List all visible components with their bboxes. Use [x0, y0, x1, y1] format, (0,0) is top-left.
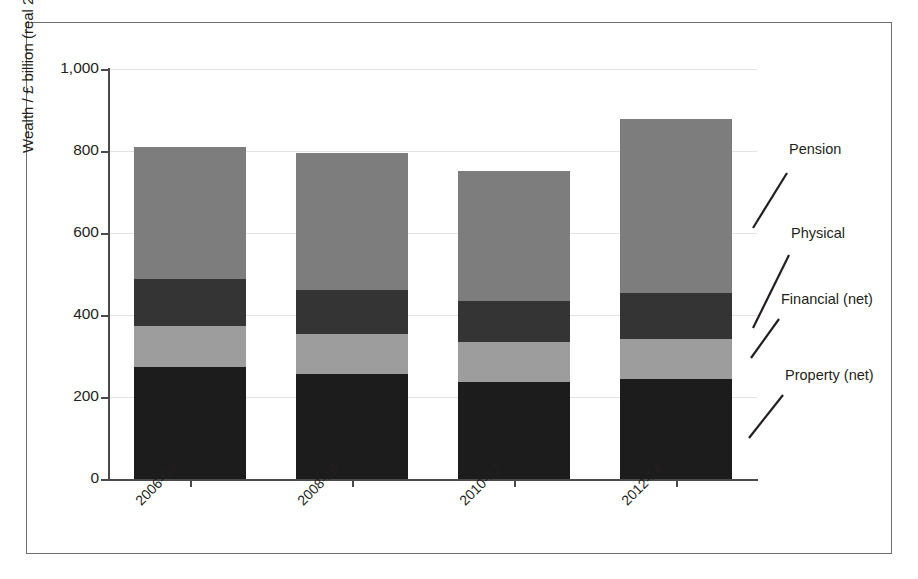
- bar-segment-physical: [620, 293, 732, 339]
- bar-2012-14: [620, 69, 732, 479]
- chart-figure: Wealth / £ billion (real 2015 prices) 02…: [26, 22, 892, 554]
- bar-segment-pension: [296, 153, 408, 290]
- bar-segment-financial-net: [296, 334, 408, 374]
- y-tick-label: 800: [33, 141, 99, 159]
- x-tick-mark: [190, 479, 192, 487]
- bar-2008-10: [296, 69, 408, 479]
- bar-segment-property-net: [458, 382, 570, 479]
- x-tick-mark: [352, 479, 354, 487]
- bar-segment-pension: [620, 119, 732, 293]
- annotation-label-physical: Physical: [791, 225, 845, 241]
- y-tick-label: 400: [33, 305, 99, 323]
- annotation-label-property-net: Property (net): [785, 367, 874, 383]
- bar-segment-pension: [134, 147, 246, 279]
- bar-segment-financial-net: [620, 339, 732, 379]
- bar-segment-property-net: [134, 367, 246, 479]
- bar-segment-property-net: [296, 374, 408, 479]
- annotation-label-pension: Pension: [789, 141, 841, 157]
- annotation-label-financial-net: Financial (net): [781, 291, 873, 307]
- bar-segment-physical: [458, 301, 570, 341]
- plot-area: [109, 69, 757, 479]
- bar-2010-12: [458, 69, 570, 479]
- bar-segment-pension: [458, 171, 570, 301]
- x-axis-line: [108, 479, 758, 481]
- y-tick-label: 600: [33, 223, 99, 241]
- x-tick-mark: [514, 479, 516, 487]
- y-tick-label: 200: [33, 387, 99, 405]
- bar-segment-financial-net: [134, 326, 246, 367]
- bar-segment-physical: [134, 279, 246, 326]
- bar-segment-physical: [296, 290, 408, 334]
- y-tick-label: 0: [33, 469, 99, 487]
- x-tick-mark: [676, 479, 678, 487]
- bar-segment-financial-net: [458, 342, 570, 382]
- bar-segment-property-net: [620, 379, 732, 479]
- bar-2006-08: [134, 69, 246, 479]
- y-tick-label: 1,000: [33, 59, 99, 77]
